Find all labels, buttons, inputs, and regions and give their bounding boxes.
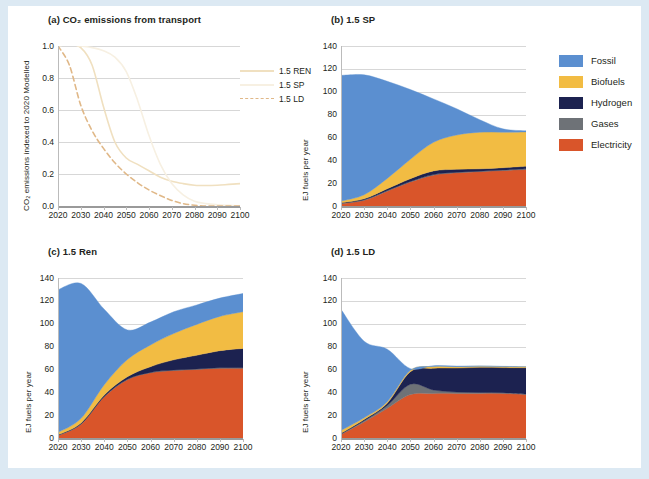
y-tick-label: 60 xyxy=(307,132,337,142)
panel-a-title: (a) CO₂ emissions from transport xyxy=(48,14,201,25)
x-tick-label: 2100 xyxy=(511,442,541,452)
x-tick-label: 2100 xyxy=(225,210,255,220)
y-tick-label: 120 xyxy=(24,295,54,305)
y-axis-line xyxy=(341,278,342,439)
y-tick-label: 0 xyxy=(307,201,337,211)
y-tick-label: 100 xyxy=(307,86,337,96)
y-tick-label: 0 xyxy=(307,433,337,443)
panel-d-title: (d) 1.5 LD xyxy=(331,246,375,257)
panel-1p5-sp: (b) 1.5 SP EJ fuels per year 02040608010… xyxy=(313,6,553,236)
line-series-1-5-sp xyxy=(58,46,240,206)
y-tick-label: 60 xyxy=(307,364,337,374)
panel-c-title: (c) 1.5 Ren xyxy=(48,246,97,257)
legend-fuel-label: Fossil xyxy=(591,55,616,66)
figure-canvas: (a) CO₂ emissions from transport CO₂ emi… xyxy=(8,6,641,468)
x-tick-mark xyxy=(149,207,150,210)
legend-fuel-item: Fossil xyxy=(559,50,632,71)
legend-fuel-label: Gases xyxy=(591,118,618,129)
y-tick-label: 60 xyxy=(24,364,54,374)
x-tick-mark xyxy=(104,439,105,442)
legend-fuel-item: Gases xyxy=(559,113,632,134)
x-tick-mark xyxy=(457,439,458,442)
x-tick-mark xyxy=(341,439,342,442)
x-tick-mark xyxy=(151,439,152,442)
y-tick-label: 40 xyxy=(307,387,337,397)
panel-d-y-axis-label: EJ fuels per year xyxy=(301,371,310,433)
x-tick-mark xyxy=(195,207,196,210)
x-tick-mark xyxy=(243,439,244,442)
legend-line-swatch-icon xyxy=(240,94,274,104)
x-tick-mark xyxy=(480,207,481,210)
line-series-1-5-ld xyxy=(58,46,240,206)
x-tick-mark xyxy=(58,439,59,442)
panel-b-title: (b) 1.5 SP xyxy=(331,14,375,25)
x-tick-mark xyxy=(503,207,504,210)
panel-b-y-axis-label: EJ fuels per year xyxy=(301,139,310,201)
x-tick-mark xyxy=(240,207,241,210)
y-tick-label: 100 xyxy=(307,318,337,328)
x-tick-mark xyxy=(58,207,59,210)
x-tick-mark xyxy=(364,207,365,210)
legend-scenario-label: 1.5 REN xyxy=(279,66,311,76)
x-tick-mark xyxy=(341,207,342,210)
x-tick-mark xyxy=(104,207,105,210)
x-tick-mark xyxy=(127,439,128,442)
legend-fuel-label: Hydrogen xyxy=(591,97,632,108)
legend-fuel-swatch-icon xyxy=(559,139,583,151)
legend-scenario-item: 1.5 REN xyxy=(240,64,311,78)
x-tick-mark xyxy=(387,207,388,210)
x-tick-mark xyxy=(364,439,365,442)
y-tick-label: 40 xyxy=(307,155,337,165)
x-tick-mark xyxy=(81,207,82,210)
legend-fuel-swatch-icon xyxy=(559,76,583,88)
y-tick-label: 120 xyxy=(307,63,337,73)
y-axis-line xyxy=(58,278,59,439)
y-tick-label: 20 xyxy=(24,410,54,420)
y-tick-label: 80 xyxy=(24,341,54,351)
legend-fuel-item: Biofuels xyxy=(559,71,632,92)
panel-1p5-ren: (c) 1.5 Ren EJ fuels per year 0204060801… xyxy=(8,238,308,468)
x-tick-mark xyxy=(217,207,218,210)
y-tick-label: 140 xyxy=(24,273,54,283)
y-tick-label: 0.6 xyxy=(24,105,54,115)
x-tick-mark xyxy=(480,439,481,442)
x-tick-mark xyxy=(457,207,458,210)
legend-scenario-label: 1.5 LD xyxy=(279,94,304,104)
x-tick-mark xyxy=(526,207,527,210)
x-tick-mark xyxy=(503,439,504,442)
x-tick-mark xyxy=(197,439,198,442)
x-tick-mark xyxy=(174,439,175,442)
legend-line-swatch-icon xyxy=(240,66,274,76)
y-tick-label: 0 xyxy=(24,433,54,443)
y-tick-label: 140 xyxy=(307,41,337,51)
y-tick-label: 20 xyxy=(307,178,337,188)
y-tick-label: 1.0 xyxy=(24,41,54,51)
legend-scenarios: 1.5 REN1.5 SP1.5 LD xyxy=(240,64,311,106)
legend-scenario-label: 1.5 SP xyxy=(279,80,305,90)
x-tick-mark xyxy=(126,207,127,210)
legend-fuel-swatch-icon xyxy=(559,55,583,67)
panel-c-plot-area xyxy=(58,278,243,438)
panel-1p5-ld: (d) 1.5 LD EJ fuels per year 02040608010… xyxy=(313,238,553,468)
legend-fuel-label: Biofuels xyxy=(591,76,625,87)
y-tick-label: 120 xyxy=(307,295,337,305)
y-tick-label: 80 xyxy=(307,341,337,351)
y-tick-label: 40 xyxy=(24,387,54,397)
panel-d-plot-area xyxy=(341,278,526,438)
x-tick-mark xyxy=(410,439,411,442)
legend-fuel-label: Electricity xyxy=(591,139,632,150)
x-tick-label: 2100 xyxy=(228,442,258,452)
y-tick-label: 20 xyxy=(307,410,337,420)
y-tick-label: 0.2 xyxy=(24,169,54,179)
y-tick-label: 0.4 xyxy=(24,137,54,147)
panel-a-plot-area xyxy=(58,46,240,206)
y-tick-label: 140 xyxy=(307,273,337,283)
panel-c-y-axis-label: EJ fuels per year xyxy=(24,371,33,433)
x-tick-mark xyxy=(526,439,527,442)
legend-fuels: FossilBiofuelsHydrogenGasesElectricity xyxy=(559,50,632,155)
y-tick-label: 0.8 xyxy=(24,73,54,83)
y-tick-label: 0.0 xyxy=(24,201,54,211)
x-tick-mark xyxy=(387,439,388,442)
x-tick-mark xyxy=(434,439,435,442)
legend-fuel-swatch-icon xyxy=(559,97,583,109)
